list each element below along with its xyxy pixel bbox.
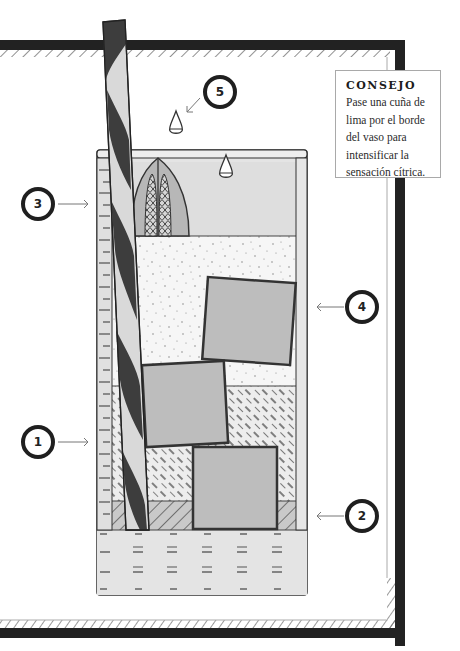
callout-3: 3 <box>21 187 55 221</box>
tip-box: CONSEJO Pase una cuña de lima por el bor… <box>335 70 441 178</box>
callout-2: 2 <box>345 499 379 533</box>
tip-title: CONSEJO <box>346 79 434 92</box>
callout-5-number: 5 <box>216 85 224 99</box>
callout-5: 5 <box>203 75 237 109</box>
base-liquid-layer <box>97 530 307 595</box>
callout-1: 1 <box>21 425 55 459</box>
drop-icon <box>169 111 182 133</box>
ice-cube-top <box>202 277 296 365</box>
ice-cube-bottom <box>193 447 277 529</box>
callout-2-number: 2 <box>358 509 366 523</box>
glass-ruler <box>97 158 112 530</box>
callout-4-number: 4 <box>358 300 366 314</box>
tip-body: Pase una cuña de lima por el borde del v… <box>346 94 434 182</box>
callout-1-number: 1 <box>34 435 42 449</box>
ice-cube-middle <box>142 361 228 447</box>
callout-3-number: 3 <box>34 197 42 211</box>
callout-4: 4 <box>345 290 379 324</box>
